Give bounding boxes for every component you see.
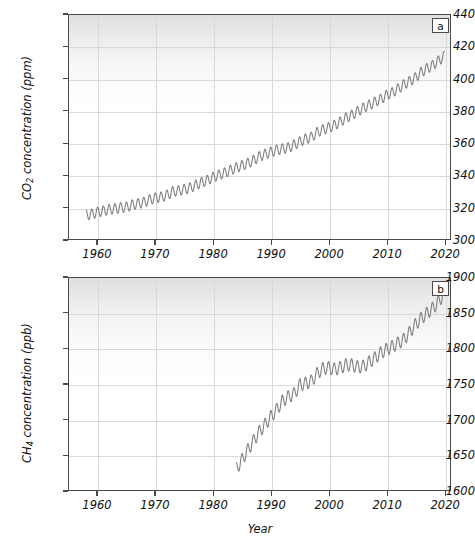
figure-root: a 300320340360380400420440 1960197019801… — [0, 0, 475, 546]
x-tick-label: 2020 — [431, 498, 460, 512]
x-tick-mark — [154, 491, 155, 496]
y-tick-label: 440 — [416, 7, 475, 21]
y-tick-mark — [63, 143, 68, 144]
x-tick-mark — [329, 491, 330, 496]
x-tick-mark — [445, 240, 446, 245]
x-tick-mark — [271, 491, 272, 496]
x-tick-label: 1980 — [198, 247, 227, 261]
y-axis-title-co2: CO2 concentration (ppm) — [20, 56, 35, 200]
x-tick-mark — [445, 491, 446, 496]
plot-inner-ch4 — [69, 278, 450, 490]
y-tick-label: 1800 — [416, 341, 475, 355]
y-tick-label: 1900 — [416, 270, 475, 284]
x-tick-label: 1970 — [140, 247, 169, 261]
plot-area-co2 — [68, 14, 451, 240]
y-tick-mark — [63, 312, 68, 313]
x-tick-label: 2000 — [314, 247, 343, 261]
y-tick-label: 340 — [416, 168, 475, 182]
y-axis-title-species: CO — [20, 183, 34, 200]
x-tick-label: 1960 — [82, 498, 111, 512]
x-tick-label: 2010 — [373, 247, 402, 261]
panel-b-ch4: b 1600165017001750180018501900 196019701… — [0, 268, 475, 546]
y-tick-label: 1850 — [416, 306, 475, 320]
x-axis-title: Year — [248, 522, 273, 536]
y-axis-title-subscript: 2 — [25, 178, 35, 183]
y-tick-mark — [63, 348, 68, 349]
y-tick-label: 320 — [416, 201, 475, 215]
x-tick-mark — [271, 240, 272, 245]
y-axis-title-units: concentration (ppb) — [20, 323, 34, 441]
y-tick-label: 360 — [416, 136, 475, 150]
panel-a-co2: a 300320340360380400420440 1960197019801… — [0, 0, 475, 268]
x-tick-mark — [96, 491, 97, 496]
x-tick-label: 1990 — [256, 498, 285, 512]
plot-area-ch4 — [68, 277, 451, 491]
y-tick-mark — [63, 110, 68, 111]
y-tick-label: 1700 — [416, 413, 475, 427]
x-tick-label: 1980 — [198, 498, 227, 512]
y-tick-mark — [63, 276, 68, 277]
plot-inner-co2 — [69, 15, 450, 239]
x-tick-label: 2020 — [431, 247, 460, 261]
y-tick-mark — [63, 175, 68, 176]
y-tick-mark — [63, 207, 68, 208]
x-tick-mark — [387, 491, 388, 496]
x-tick-label: 1990 — [256, 247, 285, 261]
y-tick-mark — [63, 455, 68, 456]
y-tick-mark — [63, 78, 68, 79]
x-tick-mark — [213, 491, 214, 496]
x-tick-label: 2010 — [373, 498, 402, 512]
y-tick-mark — [63, 46, 68, 47]
y-tick-label: 1650 — [416, 448, 475, 462]
y-tick-mark — [63, 419, 68, 420]
x-tick-mark — [213, 240, 214, 245]
y-tick-mark — [63, 383, 68, 384]
y-tick-label: 1750 — [416, 377, 475, 391]
x-tick-mark — [154, 240, 155, 245]
ch4-series-line — [69, 278, 450, 490]
co2-series-line — [69, 15, 450, 239]
x-tick-mark — [96, 240, 97, 245]
y-axis-title-ch4: CH4 concentration (ppb) — [20, 323, 35, 463]
y-tick-mark — [63, 239, 68, 240]
y-tick-mark — [63, 490, 68, 491]
y-axis-title-species: CH — [20, 446, 34, 463]
y-tick-label: 400 — [416, 72, 475, 86]
y-axis-title-subscript: 4 — [25, 441, 35, 446]
x-tick-label: 1970 — [140, 498, 169, 512]
x-tick-mark — [387, 240, 388, 245]
y-tick-label: 380 — [416, 104, 475, 118]
y-tick-label: 420 — [416, 39, 475, 53]
x-tick-mark — [329, 240, 330, 245]
y-tick-mark — [63, 13, 68, 14]
y-axis-title-units: concentration (ppm) — [20, 56, 34, 178]
x-tick-label: 1960 — [82, 247, 111, 261]
x-tick-label: 2000 — [314, 498, 343, 512]
